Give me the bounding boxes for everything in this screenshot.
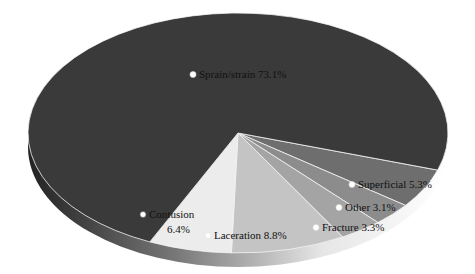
pie-chart: Sprain/strain 73.1%Contusion6.4%Lacerati… [0, 0, 475, 274]
label-marker-contusion [140, 212, 146, 218]
data-label-sprain-strain: Sprain/strain 73.1% [199, 68, 286, 80]
data-label-contusion: Contusion [149, 208, 195, 220]
label-marker-other [336, 205, 342, 211]
label-marker-laceration [205, 233, 211, 239]
data-label-laceration: Laceration 8.8% [214, 229, 287, 241]
data-label-contusion-value: 6.4% [167, 223, 190, 235]
data-label-superficial: Superficial 5.3% [358, 178, 432, 190]
label-marker-sprain-strain [190, 72, 196, 78]
data-label-fracture: Fracture 3.3% [322, 221, 384, 233]
label-marker-fracture [313, 225, 319, 231]
label-marker-superficial [349, 182, 355, 188]
data-label-other: Other 3.1% [345, 201, 396, 213]
